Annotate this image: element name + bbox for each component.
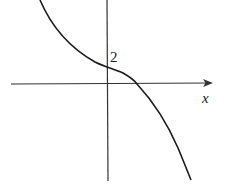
y-axis <box>107 0 108 181</box>
function-graph: 2 x <box>0 0 226 190</box>
x-axis-label: x <box>201 90 209 106</box>
y-intercept-label: 2 <box>110 49 118 65</box>
function-curve <box>40 0 191 180</box>
x-axis <box>11 83 211 84</box>
